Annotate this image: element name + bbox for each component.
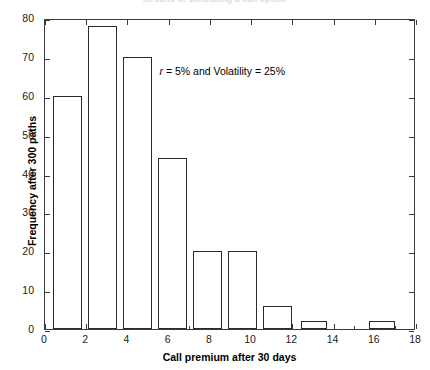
x-tick-major: [416, 324, 417, 329]
y-tick: [409, 98, 414, 99]
x-tick-label: 6: [155, 333, 181, 345]
y-tick: [45, 292, 50, 293]
chart-container: Results of simulating a call option Freq…: [0, 0, 430, 370]
bar: [263, 306, 292, 329]
x-tick-label: 16: [361, 333, 387, 345]
y-tick: [409, 137, 414, 138]
y-tick-label: 0: [0, 324, 34, 335]
x-tick-minor: [395, 326, 396, 329]
x-tick-label: 2: [72, 333, 98, 345]
x-tick-top: [251, 20, 252, 25]
y-tick: [409, 59, 414, 60]
plot-area: r = 5% and Volatility = 25%: [44, 19, 415, 330]
x-tick-major: [86, 324, 87, 329]
chart-title: Results of simulating a call option: [0, 0, 430, 4]
x-tick-top: [292, 20, 293, 25]
y-tick: [409, 331, 414, 332]
y-tick: [409, 176, 414, 177]
y-tick-label: 60: [0, 91, 34, 102]
chart-annotation: r = 5% and Volatility = 25%: [160, 65, 286, 77]
x-tick-label: 18: [402, 333, 428, 345]
y-tick-label: 10: [0, 285, 34, 296]
x-tick-label: 0: [31, 333, 57, 345]
y-axis-tick-labels: 01020304050607080: [0, 19, 38, 330]
annotation-text: = 5% and Volatility = 25%: [163, 65, 285, 77]
x-tick-major: [45, 324, 46, 329]
x-tick-minor: [189, 326, 190, 329]
y-tick: [45, 137, 50, 138]
x-tick-major: [292, 324, 293, 329]
x-tick-label: 12: [278, 333, 304, 345]
x-tick-label: 4: [113, 333, 139, 345]
y-tick: [45, 331, 50, 332]
y-tick: [409, 253, 414, 254]
bar: [301, 321, 328, 329]
bar: [123, 57, 152, 329]
x-tick-major: [334, 324, 335, 329]
x-tick-top: [45, 20, 46, 25]
bar: [228, 251, 257, 329]
y-tick: [45, 176, 50, 177]
x-tick-top: [127, 20, 128, 25]
y-tick: [409, 214, 414, 215]
x-tick-top: [416, 20, 417, 25]
x-tick-label: 10: [237, 333, 263, 345]
y-tick: [409, 292, 414, 293]
x-tick-label: 14: [320, 333, 346, 345]
y-tick: [45, 214, 50, 215]
bar: [193, 251, 222, 329]
y-tick: [45, 253, 50, 254]
x-axis-tick-labels: 024681012141618: [44, 333, 415, 349]
bar: [88, 26, 117, 329]
bar: [53, 96, 82, 329]
y-tick: [45, 98, 50, 99]
y-tick-label: 20: [0, 246, 34, 257]
x-axis-title: Call premium after 30 days: [44, 351, 415, 363]
y-tick-label: 50: [0, 130, 34, 141]
y-tick: [409, 20, 414, 21]
bar: [158, 158, 187, 329]
y-tick: [45, 59, 50, 60]
bar: [369, 321, 396, 329]
y-tick-label: 40: [0, 169, 34, 180]
x-tick-top: [334, 20, 335, 25]
x-tick-top: [169, 20, 170, 25]
x-tick-top: [86, 20, 87, 25]
x-tick-label: 8: [196, 333, 222, 345]
x-tick-top: [210, 20, 211, 25]
y-tick-label: 70: [0, 52, 34, 63]
y-tick-label: 80: [0, 13, 34, 24]
y-tick-label: 30: [0, 207, 34, 218]
x-tick-minor: [354, 326, 355, 329]
x-tick-top: [375, 20, 376, 25]
